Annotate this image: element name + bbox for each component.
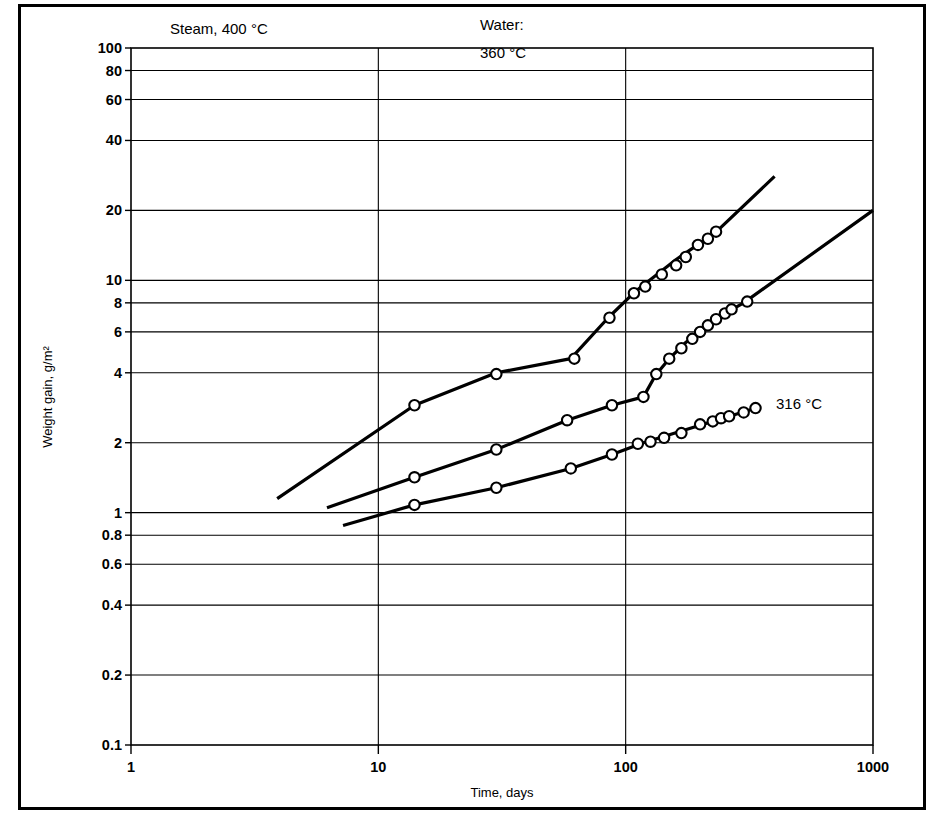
data-point-marker: [604, 313, 614, 323]
data-point-marker: [491, 444, 501, 454]
data-point-marker: [711, 226, 721, 236]
data-point-marker: [695, 419, 705, 429]
series-curves-group: [277, 176, 873, 525]
y-tick-label: 60: [106, 92, 122, 108]
x-tick-label: 1: [127, 759, 135, 775]
data-point-marker: [750, 403, 760, 413]
data-point-marker: [659, 433, 669, 443]
data-point-marker: [569, 353, 579, 363]
x-tick-label: 1000: [857, 759, 889, 775]
data-point-marker: [491, 369, 501, 379]
data-point-marker: [724, 411, 734, 421]
data-point-marker: [633, 439, 643, 449]
data-point-marker: [664, 353, 674, 363]
series-annotation-label: Steam, 400 °C: [170, 20, 268, 37]
series-annotations-group: Steam, 400 °CWater:360 °C316 °C: [170, 16, 822, 412]
data-point-marker: [726, 304, 736, 314]
data-point-marker: [676, 428, 686, 438]
y-tick-label: 40: [106, 132, 122, 148]
y-axis-title: Weight gain, g/m²: [40, 346, 55, 448]
chart-canvas: 0.10.20.40.60.8124681020406080100 110100…: [0, 0, 944, 839]
data-point-marker: [562, 415, 572, 425]
data-point-marker: [693, 240, 703, 250]
plot-frame: [131, 48, 873, 745]
plot-area-border: [131, 48, 873, 745]
data-point-marker: [566, 463, 576, 473]
data-point-marker: [645, 437, 655, 447]
y-tick-label: 0.2: [102, 667, 122, 683]
x-tickmarks-group: [131, 745, 873, 754]
y-tick-label: 2: [114, 435, 122, 451]
data-point-marker: [657, 269, 667, 279]
y-tick-label: 0.6: [102, 556, 122, 572]
y-tick-label: 20: [106, 202, 122, 218]
y-tick-label: 0.4: [102, 597, 122, 613]
data-point-marker: [607, 449, 617, 459]
y-tick-label: 6: [114, 324, 122, 340]
x-axis-title: Time, days: [470, 785, 534, 800]
gridlines-group: [131, 48, 873, 745]
x-tick-labels-group: 1101001000: [127, 759, 889, 775]
data-point-marker: [409, 400, 419, 410]
series-annotation-label: 316 °C: [776, 395, 822, 412]
x-tick-label: 10: [370, 759, 386, 775]
y-tick-label: 4: [114, 365, 122, 381]
y-tick-label: 0.1: [102, 737, 122, 753]
series-line: [327, 210, 873, 507]
data-point-marker: [629, 288, 639, 298]
data-point-marker: [742, 296, 752, 306]
data-point-marker: [671, 260, 681, 270]
figure-container: 0.10.20.40.60.8124681020406080100 110100…: [0, 0, 944, 839]
series-annotation-label: Water:: [480, 16, 524, 33]
y-tick-label: 1: [114, 505, 122, 521]
y-tick-labels-group: 0.10.20.40.60.8124681020406080100: [98, 40, 131, 753]
data-point-marker: [640, 281, 650, 291]
y-tick-label: 10: [106, 272, 122, 288]
x-tick-label: 100: [614, 759, 638, 775]
series-markers-group: [409, 226, 760, 510]
data-point-marker: [676, 343, 686, 353]
data-point-marker: [651, 369, 661, 379]
data-point-marker: [638, 392, 648, 402]
y-tick-label: 0.8: [102, 527, 122, 543]
data-point-marker: [681, 252, 691, 262]
data-point-marker: [409, 472, 419, 482]
data-point-marker: [491, 483, 501, 493]
series-annotation-label: 360 °C: [480, 44, 526, 61]
y-tick-label: 100: [98, 40, 122, 56]
y-tick-label: 8: [114, 295, 122, 311]
data-point-marker: [409, 500, 419, 510]
data-point-marker: [607, 400, 617, 410]
y-tick-label: 80: [106, 63, 122, 79]
data-point-marker: [738, 407, 748, 417]
